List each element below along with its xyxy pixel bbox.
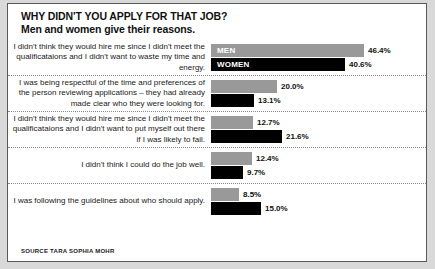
bar-value-men: 46.4% [368, 46, 391, 55]
chart-row: I was following the guidelines about who… [8, 183, 426, 219]
bar-women [211, 166, 243, 179]
chart-row: I didn't think I could do the job well. … [8, 147, 426, 183]
bar-value-men: 12.4% [256, 154, 279, 163]
bar-men [211, 116, 253, 129]
chart-source: SOURCE TARA SOPHIA MOHR [21, 248, 115, 254]
bar-value-women: 15.0% [265, 204, 288, 213]
bar-men: MEN [211, 44, 364, 57]
row-bars: 20.0% 13.1% [211, 76, 426, 111]
bar-men [211, 152, 252, 165]
bar-men [211, 80, 277, 93]
row-bars: 12.4% 9.7% [211, 148, 426, 183]
bar-line-men: MEN 46.4% [211, 44, 426, 57]
bar-women [211, 130, 282, 143]
bar-men [211, 188, 239, 201]
chart-row: I was being respectful of the time and p… [8, 75, 426, 111]
chart-row: I didn't think they would hire me since … [8, 111, 426, 147]
row-bars: 12.7% 21.6% [211, 112, 426, 147]
chart-rows: I didn't think they would hire me since … [8, 40, 426, 219]
chart-row: I didn't think they would hire me since … [8, 40, 426, 75]
bar-line-women: 9.7% [211, 166, 426, 179]
bar-value-women: 13.1% [258, 96, 281, 105]
row-label: I was being respectful of the time and p… [8, 78, 211, 110]
chart-panel: WHY DIDN'T YOU APPLY FOR THAT JOB? Men a… [7, 3, 427, 262]
bar-line-men: 12.7% [211, 116, 426, 129]
bar-line-men: 20.0% [211, 80, 426, 93]
bar-line-women: WOMEN 40.6% [211, 58, 426, 71]
row-label: I didn't think I could do the job well. [8, 160, 211, 171]
bar-value-women: 21.6% [286, 132, 309, 141]
bar-value-men: 12.7% [257, 118, 280, 127]
bar-value-women: 9.7% [247, 168, 265, 177]
bar-series-label-men: MEN [211, 46, 235, 55]
bar-series-label-women: WOMEN [211, 60, 250, 69]
row-label: I didn't think they would hire me since … [8, 114, 211, 146]
chart-subtitle: Men and women give their reasons. [21, 23, 426, 35]
bar-line-men: 8.5% [211, 188, 426, 201]
chart-header: WHY DIDN'T YOU APPLY FOR THAT JOB? Men a… [8, 4, 426, 35]
row-bars: MEN 46.4% WOMEN 40.6% [211, 40, 426, 75]
bar-line-women: 21.6% [211, 130, 426, 143]
bar-women [211, 202, 261, 215]
bar-value-men: 8.5% [243, 190, 261, 199]
chart-title: WHY DIDN'T YOU APPLY FOR THAT JOB? [21, 10, 426, 22]
bar-line-women: 13.1% [211, 94, 426, 107]
bar-line-women: 15.0% [211, 202, 426, 215]
bar-women: WOMEN [211, 58, 345, 71]
row-label: I didn't think they would hire me since … [8, 42, 211, 74]
row-bars: 8.5% 15.0% [211, 184, 426, 219]
bar-value-men: 20.0% [281, 82, 304, 91]
bar-value-women: 40.6% [349, 60, 372, 69]
row-label: I was following the guidelines about who… [8, 196, 211, 207]
bar-women [211, 94, 254, 107]
bar-line-men: 12.4% [211, 152, 426, 165]
